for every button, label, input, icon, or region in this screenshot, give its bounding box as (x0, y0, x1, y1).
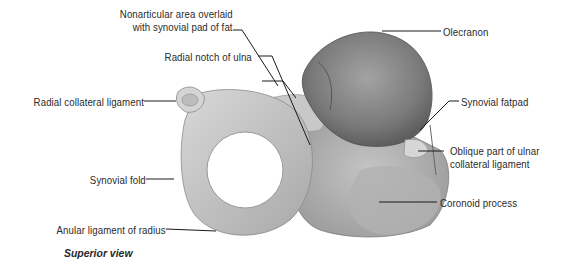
label-nonarticular-line1: Nonarticular area overlaid (120, 8, 233, 20)
label-coronoid-process: Coronoid process (440, 197, 517, 209)
label-olecranon: Olecranon (443, 26, 488, 38)
radial-head-hole (207, 132, 283, 208)
label-synovial-fatpad: Synovial fatpad (461, 96, 528, 108)
label-radial-collateral-ligament: Radial collateral ligament (34, 96, 144, 108)
figure-caption: Superior view (64, 247, 133, 259)
label-anular-ligament: Anular ligament of radius (57, 224, 166, 236)
label-nonarticular-line2: with synovial pad of fat (133, 21, 233, 33)
label-radial-notch: Radial notch of ulna (165, 51, 252, 63)
label-oblique-line1: Oblique part of ulnar (450, 145, 539, 157)
label-synovial-fold: Synovial fold (90, 174, 146, 186)
label-oblique-line2: collateral ligament (450, 158, 530, 170)
